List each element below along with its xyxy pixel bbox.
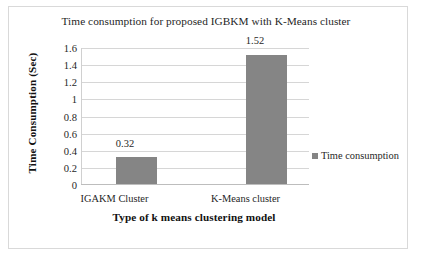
y-tick-label: 1 <box>43 94 77 105</box>
x-tick-label-k-means: K-Means cluster <box>204 193 287 204</box>
y-tick-label: 0.6 <box>43 128 77 139</box>
y-axis-tick-labels: 1.6 1.4 1.2 1 0.8 0.6 0.4 0.2 0 <box>43 48 77 185</box>
chart-title: Time consumption for proposed IGBKM with… <box>61 15 351 29</box>
chart-frame: Time consumption for proposed IGBKM with… <box>8 6 408 249</box>
y-tick-label: 1.2 <box>43 77 77 88</box>
legend-label-time-consumption: Time consumption <box>321 150 399 161</box>
y-tick-label: 1.4 <box>43 60 77 71</box>
x-axis-title: Type of k means clustering model <box>69 211 319 223</box>
y-axis-line <box>81 48 82 185</box>
y-tick-label: 0.4 <box>43 145 77 156</box>
bar-value-label-igakm: 0.32 <box>105 138 145 149</box>
y-tick-label: 1.6 <box>43 43 77 54</box>
chart-legend: Time consumption <box>312 150 399 161</box>
y-tick-label: 0.8 <box>43 111 77 122</box>
legend-swatch-icon <box>312 153 318 159</box>
x-axis-line <box>81 184 309 185</box>
y-tick-label: 0 <box>43 180 77 191</box>
gridline <box>81 48 309 49</box>
plot-area <box>81 48 309 185</box>
y-tick-label: 0.2 <box>43 162 77 173</box>
bar-igakm-cluster[interactable] <box>116 157 157 184</box>
y-axis-title: Time Consumption (Sec) <box>26 38 38 188</box>
x-tick-label-igakm: IGAKM Cluster <box>76 193 153 204</box>
bar-value-label-k-means: 1.52 <box>235 35 275 46</box>
bar-k-means-cluster[interactable] <box>246 55 287 184</box>
